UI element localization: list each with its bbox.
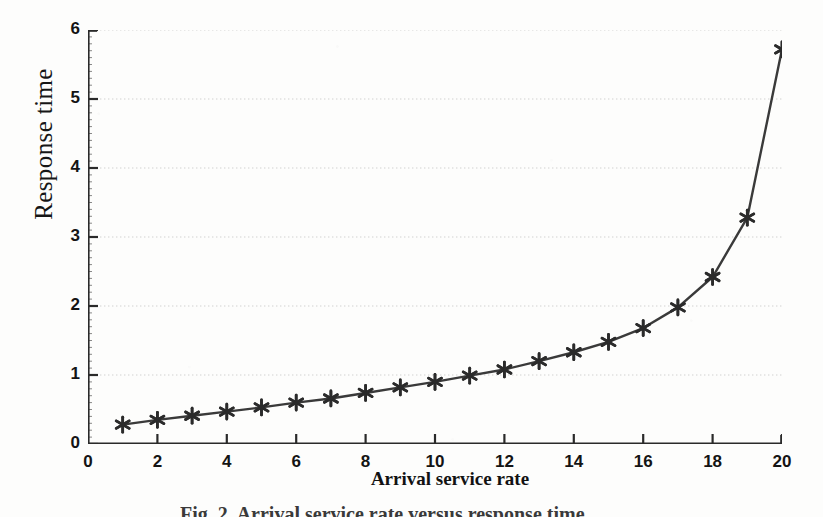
y-tick-label: 1 xyxy=(52,364,80,384)
data-point-marker xyxy=(602,334,615,349)
data-point-marker xyxy=(741,210,754,225)
plot-area xyxy=(88,30,782,444)
data-point-marker xyxy=(776,42,783,57)
x-tick-label: 2 xyxy=(140,452,174,472)
x-tick-label: 20 xyxy=(765,452,799,472)
y-tick-label: 6 xyxy=(52,19,80,39)
y-tick-label: 3 xyxy=(52,226,80,246)
y-tick-label: 0 xyxy=(52,433,80,453)
gridlines-group xyxy=(88,30,782,375)
x-axis-title: Arrival service rate xyxy=(300,468,600,490)
x-tick-label: 16 xyxy=(626,452,660,472)
x-tick-label: 0 xyxy=(71,452,105,472)
data-point-marker xyxy=(637,321,650,336)
figure-container: Response time 0123456 02468101214161820 … xyxy=(0,0,823,517)
y-tick-label: 4 xyxy=(52,157,80,177)
y-tick-label: 2 xyxy=(52,295,80,315)
y-tick-label: 5 xyxy=(52,88,80,108)
x-tick-label: 18 xyxy=(696,452,730,472)
figure-caption: Fig. 2. Arrival service rate versus resp… xyxy=(180,503,640,517)
line-chart-svg xyxy=(88,30,782,444)
x-tick-label: 4 xyxy=(210,452,244,472)
